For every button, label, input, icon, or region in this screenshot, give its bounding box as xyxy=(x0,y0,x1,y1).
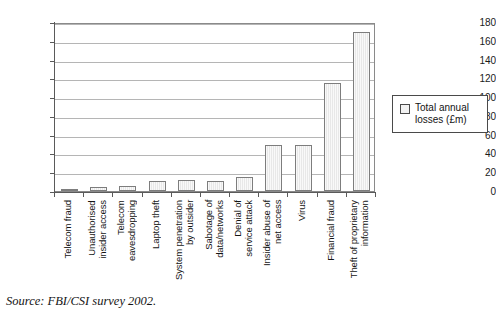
bar xyxy=(324,83,341,191)
x-axis-tick-mark xyxy=(171,192,172,197)
y-axis-tick-mark xyxy=(50,42,54,43)
bar xyxy=(178,180,195,191)
x-axis-tick-mark xyxy=(375,192,376,197)
gridline xyxy=(55,43,374,44)
x-axis-tick-label: Theft of proprietary information xyxy=(349,200,371,278)
x-axis-tick-mark xyxy=(317,192,318,197)
bar-chart: 180160140120100806040200 Telecom fraudUn… xyxy=(0,0,496,319)
bar xyxy=(119,186,136,191)
x-axis-tick-mark xyxy=(54,192,55,197)
y-axis-tick-mark xyxy=(50,136,54,137)
y-axis-tick-label: 180 xyxy=(450,18,496,28)
x-axis-tick-label: Denial of service attack xyxy=(233,200,255,257)
x-axis-tick-label: System penetration by outsider xyxy=(174,200,196,280)
gridline xyxy=(55,62,374,63)
y-axis-tick-mark xyxy=(50,117,54,118)
x-axis-tick-mark xyxy=(83,192,84,197)
x-axis-tick-mark xyxy=(229,192,230,197)
bar xyxy=(90,187,107,191)
x-axis-tick-mark xyxy=(142,192,143,197)
y-axis-tick-mark xyxy=(50,79,54,80)
bar xyxy=(149,181,166,191)
x-axis-line xyxy=(54,192,376,193)
y-axis-tick-label: 140 xyxy=(450,56,496,66)
x-axis-tick-mark xyxy=(287,192,288,197)
plot-area xyxy=(54,23,375,192)
y-axis-line xyxy=(54,22,55,193)
y-axis-tick-mark xyxy=(50,23,54,24)
x-axis-tick-mark xyxy=(200,192,201,197)
y-axis-tick-label: 160 xyxy=(450,37,496,47)
gridline xyxy=(55,24,374,25)
x-axis-tick-label: Virus xyxy=(297,200,308,221)
y-axis-tick-label: 0 xyxy=(450,187,496,197)
x-axis-tick-label: Telecom eavesdropping xyxy=(116,200,138,261)
x-axis-tick-label: Insider abuse of net access xyxy=(262,200,284,266)
legend-label: Total annual losses (£m) xyxy=(415,102,469,126)
y-axis-tick-label: 120 xyxy=(450,74,496,84)
bar xyxy=(353,32,370,191)
legend-swatch-icon xyxy=(400,104,410,114)
y-axis-tick-mark xyxy=(50,98,54,99)
y-axis-tick-mark xyxy=(50,61,54,62)
x-axis-tick-mark xyxy=(346,192,347,197)
bar xyxy=(61,189,78,191)
y-axis-tick-label: 40 xyxy=(450,149,496,159)
bar xyxy=(295,145,312,191)
x-axis-tick-label: Unauthorised insider access xyxy=(87,200,109,259)
source-note: Source: FBI/CSI survey 2002. xyxy=(6,294,156,309)
x-axis-tick-label: Laptop theft xyxy=(151,200,162,249)
bar xyxy=(265,145,282,191)
x-axis-tick-label: Financial fraud xyxy=(326,200,337,261)
bar xyxy=(207,181,224,191)
x-axis-tick-label: Telecom fraud xyxy=(63,200,74,258)
y-axis-tick-mark xyxy=(50,154,54,155)
x-axis-tick-mark xyxy=(112,192,113,197)
gridline xyxy=(55,80,374,81)
y-axis-tick-label: 20 xyxy=(450,168,496,178)
bar xyxy=(236,177,253,191)
y-axis-tick-mark xyxy=(50,173,54,174)
x-axis-tick-mark xyxy=(258,192,259,197)
x-axis-tick-label: Sabotage of data/networks xyxy=(204,200,226,258)
chart-legend: Total annual losses (£m) xyxy=(392,95,488,133)
